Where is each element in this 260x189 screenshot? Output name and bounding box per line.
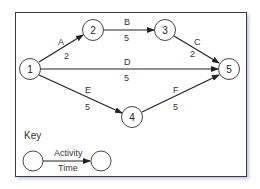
svg-text:1: 1 bbox=[27, 64, 33, 75]
edge-a-time: 2 bbox=[64, 51, 69, 61]
edge-b-activity: B bbox=[124, 17, 130, 27]
svg-text:3: 3 bbox=[162, 25, 168, 36]
edge-f-activity: F bbox=[173, 85, 179, 95]
edge-d-time: 5 bbox=[124, 73, 129, 83]
node-1: 1 bbox=[20, 59, 41, 80]
edge-d-activity: D bbox=[124, 57, 131, 67]
node-4: 4 bbox=[122, 107, 143, 128]
svg-text:2: 2 bbox=[90, 25, 96, 36]
edge-e bbox=[39, 75, 122, 113]
key-start-node bbox=[23, 151, 43, 171]
svg-text:5: 5 bbox=[226, 64, 232, 75]
edge-e-activity: E bbox=[85, 85, 91, 95]
node-5: 5 bbox=[219, 59, 240, 80]
node-2: 2 bbox=[83, 20, 104, 41]
key-time-label: Time bbox=[58, 163, 78, 173]
edge-c-activity: C bbox=[194, 37, 201, 47]
activity-network-diagram: A 2 B 5 C 2 D 5 E 5 F 5 1 2 3 4 5 Key Ac… bbox=[0, 0, 260, 189]
edge-c-time: 2 bbox=[190, 49, 195, 59]
edge-f bbox=[142, 75, 219, 112]
node-3: 3 bbox=[155, 20, 176, 41]
edge-e-time: 5 bbox=[85, 102, 90, 112]
edge-f-time: 5 bbox=[173, 102, 178, 112]
edge-a-activity: A bbox=[58, 37, 64, 47]
svg-text:4: 4 bbox=[129, 112, 135, 123]
key-end-node bbox=[91, 151, 111, 171]
key-activity-label: Activity bbox=[54, 148, 83, 158]
key-title: Key bbox=[24, 130, 41, 141]
edge-b-time: 5 bbox=[124, 33, 129, 43]
